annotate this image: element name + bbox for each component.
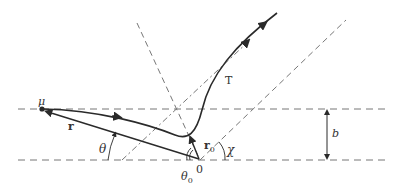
theta-arc	[108, 134, 115, 160]
theta0-symbol: θ	[181, 170, 188, 183]
origin-label: 0	[196, 164, 203, 175]
b-label: b	[332, 128, 339, 139]
theta0-arc	[190, 150, 193, 160]
trajectory-arrow-3	[244, 42, 247, 45]
asymptote-dashed-line	[122, 40, 250, 160]
r0-vector	[191, 139, 199, 159]
chi-label: χ	[227, 144, 234, 156]
theta-label: θ	[99, 143, 106, 155]
chi-arc	[219, 142, 225, 160]
theta0-label: θ0	[181, 171, 193, 185]
trajectory-curve	[42, 13, 277, 137]
chi-dashed-line	[200, 20, 346, 160]
trajectory-arrow-1	[112, 116, 118, 117]
r-label: r	[68, 121, 74, 132]
r0-subscript: 0	[210, 145, 215, 154]
T-label: T	[225, 75, 232, 86]
scattering-diagram	[0, 0, 401, 187]
theta0-subscript: 0	[188, 176, 193, 185]
r0-label: r0	[204, 140, 215, 154]
mu-label: μ	[38, 96, 45, 107]
